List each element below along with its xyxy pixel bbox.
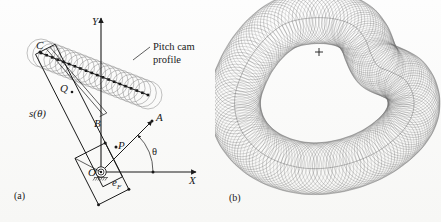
cam-profile-circle-family — [215, 0, 440, 195]
roller-center-dot — [113, 80, 116, 83]
point-q-dot — [71, 91, 74, 94]
roller-center-dot — [45, 54, 48, 57]
follower-arm-OA — [101, 121, 152, 172]
panel-a-caption: (a) — [14, 190, 25, 202]
panel-a-canvas: XYOAPBQCs(θ)eFθPitch camprofile(a) — [0, 0, 220, 222]
roller-center-dot — [57, 58, 60, 61]
callout-line-0: Pitch cam — [153, 41, 195, 52]
panel-b-canvas: (b) — [215, 0, 441, 222]
roller-center-dot — [73, 65, 76, 68]
roller-circle — [313, 0, 365, 46]
point-label-a: A — [155, 111, 163, 123]
point-label-c: C — [36, 39, 44, 51]
point-label-p: P — [117, 139, 125, 151]
roller-center-dot — [85, 69, 88, 72]
roller-center-dot — [124, 85, 127, 88]
block-corner-dot — [127, 188, 130, 191]
slot-edge-outer — [50, 47, 107, 113]
roller-center-dot — [96, 74, 99, 77]
pivot-hatch — [105, 178, 107, 181]
panel-a: XYOAPBQCs(θ)eFθPitch camprofile(a) — [0, 0, 220, 222]
point-label-b: B — [94, 117, 101, 129]
block-corner-dot — [104, 141, 107, 144]
theta-arc-base-dot — [152, 171, 155, 174]
roller-center-dot — [135, 89, 138, 92]
label-displacement-function: s(θ) — [29, 107, 46, 120]
label-subscript: F — [116, 183, 122, 191]
panel-b: (b) — [215, 0, 441, 222]
roller-circle — [215, 73, 261, 125]
roller-center-dot — [147, 94, 150, 97]
roller-center-dot — [141, 91, 144, 94]
roller-center-dot — [102, 76, 105, 79]
roller-center-dot — [68, 63, 71, 66]
theta-arc — [138, 135, 153, 172]
x-axis-label: X — [188, 174, 197, 186]
point-label-q: Q — [60, 82, 68, 94]
block-corner-dot — [97, 203, 100, 206]
roller-center-dot — [90, 72, 93, 75]
label-angle-theta: θ — [152, 146, 157, 157]
point-a — [151, 120, 154, 123]
roller-center-dot — [79, 67, 82, 70]
panel-b-caption: (b) — [229, 192, 241, 204]
roller-circle — [215, 91, 262, 143]
roller-circle — [215, 58, 264, 110]
pivot-hatch — [100, 178, 102, 181]
callout-leader-line — [133, 47, 150, 60]
roller-center-dot — [130, 87, 133, 90]
figure-root: XYOAPBQCs(θ)eFθPitch camprofile(a) (b) — [0, 0, 441, 222]
roller-center-dot — [107, 78, 110, 81]
point-label-o: O — [88, 166, 96, 178]
callout-line-1: profile — [153, 54, 181, 65]
roller-center-dot — [119, 83, 122, 86]
pivot-hatch — [103, 178, 105, 181]
y-axis-label: Y — [92, 15, 100, 27]
